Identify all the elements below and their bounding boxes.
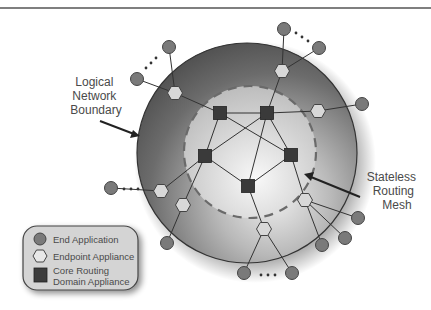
legend: End Application Endpoint Appliance Core … [23, 226, 138, 290]
boundary-arrow [100, 121, 140, 138]
endpoint-appliance-ep-4 [154, 185, 169, 198]
endpoint-appliance-ep-6 [257, 223, 272, 236]
endpoint-appliance-ep-2 [275, 65, 290, 78]
network-diagram: Logical Network Boundary Stateless Routi… [0, 0, 431, 310]
end-application-app-2 [131, 73, 144, 86]
svg-text:End Application: End Application [53, 234, 119, 245]
core-routing-core-1 [214, 107, 227, 120]
ellipsis-top-left [145, 57, 158, 70]
end-application-app-11 [238, 267, 251, 280]
end-application-app-4 [313, 42, 326, 55]
boundary-label: Logical Network Boundary [70, 75, 121, 117]
ellipsis-top-right [295, 32, 310, 43]
end-application-app-3 [278, 23, 291, 36]
endpoint-appliance-ep-1 [168, 87, 183, 100]
core-routing-icon [34, 268, 47, 282]
end-application-icon [34, 233, 46, 245]
end-application-app-12 [286, 267, 299, 280]
end-application-app-6 [105, 182, 118, 195]
core-routing-core-5 [242, 180, 255, 193]
svg-text:Domain Appliance: Domain Appliance [53, 276, 130, 287]
end-application-app-10 [316, 239, 329, 252]
svg-text:Core Routing: Core Routing [53, 265, 109, 276]
endpoint-appliance-icon [33, 250, 47, 262]
endpoint-appliance-ep-5 [176, 199, 191, 212]
end-application-app-9 [339, 232, 352, 245]
end-application-app-7 [161, 237, 174, 250]
endpoint-appliance-ep-3 [311, 105, 326, 118]
svg-text:Endpoint Appliance: Endpoint Appliance [53, 251, 134, 262]
end-application-app-5 [356, 98, 369, 111]
end-application-app-1 [163, 41, 176, 54]
core-routing-core-2 [261, 107, 274, 120]
core-routing-core-3 [199, 150, 212, 163]
endpoint-appliance-ep-7 [298, 194, 313, 207]
end-application-app-8 [352, 212, 365, 225]
mesh-label: Stateless Routing Mesh [367, 170, 420, 212]
core-routing-core-4 [285, 149, 298, 162]
